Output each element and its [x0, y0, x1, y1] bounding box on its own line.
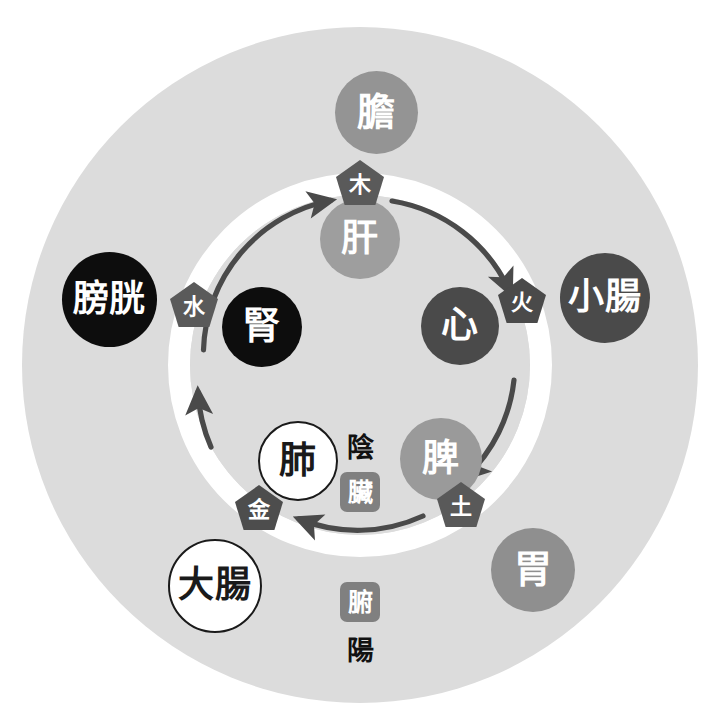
zang-organ-lung[interactable]: 肺	[258, 421, 338, 501]
zang-label-text: 臟	[348, 480, 373, 505]
fu-organ-gallbladder-label: 膽	[357, 93, 396, 131]
fu-organ-stomach[interactable]: 胃	[491, 528, 575, 612]
element-metal-label: 金	[248, 499, 270, 521]
yin-label: 陰	[341, 431, 379, 463]
element-water-label: 水	[183, 296, 205, 318]
fu-organ-gallbladder[interactable]: 膽	[335, 71, 418, 154]
zang-organ-spleen-label: 脾	[422, 440, 460, 477]
zang-organ-lung-label: 肺	[279, 442, 317, 479]
yin-label-text: 陰	[347, 434, 374, 461]
fu-organ-stomach-label: 胃	[514, 550, 553, 588]
zang-organ-heart[interactable]: 心	[421, 287, 499, 365]
zang-organ-liver-label: 肝	[341, 220, 379, 257]
fu-organ-bladder-label: 膀胱	[73, 281, 146, 317]
element-earth-label: 土	[450, 496, 472, 518]
fu-label-box: 腑	[340, 582, 380, 622]
five-elements-diagram: 膽 小腸 胃 大腸 膀胱 肝 心 脾 肺 腎 木 火 土 金 水	[0, 0, 720, 725]
fu-organ-small-intestine[interactable]: 小腸	[560, 253, 650, 343]
element-wood-label: 木	[349, 174, 371, 196]
yang-label-text: 陽	[347, 637, 374, 664]
fu-organ-large-intestine-label: 大腸	[178, 567, 251, 603]
zang-organ-liver[interactable]: 肝	[320, 199, 400, 279]
zang-label-box: 臟	[340, 472, 380, 512]
fu-label-text: 腑	[348, 590, 373, 615]
element-fire-label: 火	[511, 292, 533, 314]
zang-organ-kidney-label: 腎	[243, 308, 281, 345]
fu-organ-large-intestine[interactable]: 大腸	[168, 539, 262, 633]
zang-organ-spleen[interactable]: 脾	[400, 418, 482, 500]
fu-organ-small-intestine-label: 小腸	[568, 279, 641, 315]
fu-organ-bladder[interactable]: 膀胱	[62, 252, 157, 347]
zang-organ-heart-label: 心	[441, 307, 479, 344]
zang-organ-kidney[interactable]: 腎	[222, 287, 302, 367]
yang-label: 陽	[341, 634, 379, 666]
